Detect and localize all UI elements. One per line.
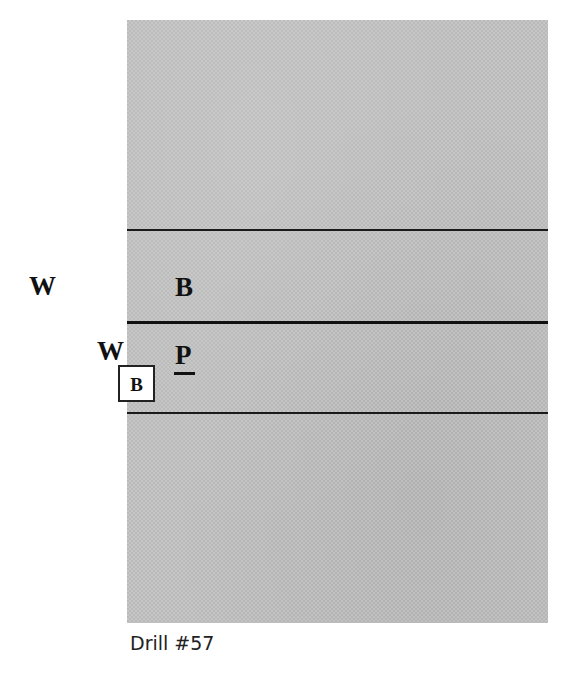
- player-p-lower: P: [175, 342, 192, 369]
- ball-marker-label: B: [130, 375, 143, 394]
- field-line-bottom: [127, 412, 548, 414]
- field-line-top: [127, 229, 548, 231]
- boxed-ball-marker: B: [118, 365, 155, 402]
- diagram-caption: Drill #57: [130, 632, 214, 654]
- player-p-underline: [174, 372, 195, 375]
- player-b-upper: B: [175, 274, 193, 301]
- field-line-middle: [127, 321, 548, 324]
- player-w-lower: W: [97, 338, 124, 365]
- player-w-upper: W: [29, 273, 56, 300]
